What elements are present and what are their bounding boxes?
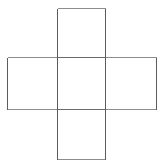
face-bottom-square <box>57 109 105 159</box>
cross-net-diagram <box>0 0 163 168</box>
face-center-square <box>57 57 105 109</box>
figure-canvas: Cross-shaped net of five squares <box>0 0 163 168</box>
face-left-square <box>7 57 57 109</box>
face-right-square <box>105 57 156 109</box>
face-top-square <box>57 8 105 57</box>
